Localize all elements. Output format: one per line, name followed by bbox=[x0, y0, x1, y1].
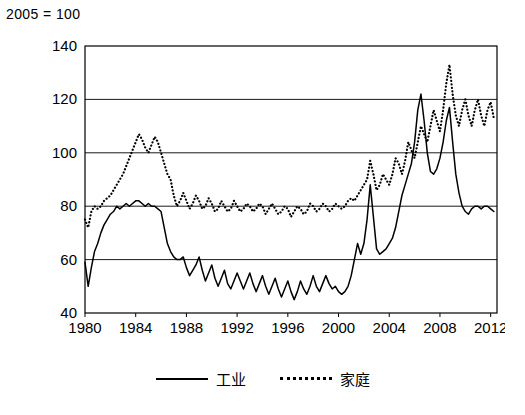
x-axis-tick-label: 2000 bbox=[322, 319, 355, 336]
x-axis-tick-label: 2012 bbox=[474, 319, 505, 336]
plot-area: 4060801001201401980198419881992199620002… bbox=[45, 38, 505, 343]
legend-entry-industry: 工业 bbox=[156, 368, 246, 389]
series-line-industry bbox=[85, 94, 494, 300]
x-axis-tick-label: 2004 bbox=[373, 319, 406, 336]
legend-label-industry: 工业 bbox=[216, 368, 246, 389]
series-line-household bbox=[85, 65, 494, 228]
chart-legend: 工业 家庭 bbox=[0, 368, 525, 389]
unit-note: 2005 = 100 bbox=[6, 6, 80, 22]
line-chart: 4060801001201401980198419881992199620002… bbox=[45, 38, 505, 343]
y-axis-tick-label: 100 bbox=[52, 144, 77, 161]
x-axis-tick-label: 1996 bbox=[271, 319, 304, 336]
x-axis-tick-label: 1988 bbox=[170, 319, 203, 336]
solid-line-swatch-icon bbox=[156, 378, 208, 380]
y-axis-tick-label: 60 bbox=[60, 251, 77, 268]
x-axis-tick-label: 2008 bbox=[423, 319, 456, 336]
dotted-line-swatch-icon bbox=[280, 377, 332, 380]
legend-entry-household: 家庭 bbox=[280, 368, 370, 389]
x-axis-tick-label: 1992 bbox=[220, 319, 253, 336]
y-axis-tick-label: 140 bbox=[52, 38, 77, 54]
y-axis-tick-label: 80 bbox=[60, 197, 77, 214]
x-axis-tick-label: 1980 bbox=[68, 319, 101, 336]
y-axis-tick-label: 120 bbox=[52, 90, 77, 107]
legend-label-household: 家庭 bbox=[340, 368, 370, 389]
x-axis-tick-label: 1984 bbox=[119, 319, 152, 336]
chart-page: 2005 = 100 40608010012014019801984198819… bbox=[0, 0, 525, 415]
